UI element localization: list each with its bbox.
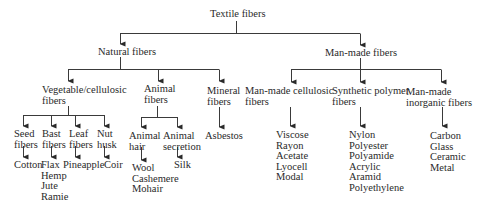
leaf-list-seed: Cotton <box>14 160 43 171</box>
node-label: fibers <box>245 97 333 108</box>
node-mineral-fibers: Mineral fibers <box>207 86 240 107</box>
leaf-item: Silk <box>174 160 191 171</box>
leaf-item: Aramid <box>349 172 404 183</box>
leaf-list-mineral: Asbestos <box>205 131 243 142</box>
node-label: fibers <box>42 140 66 151</box>
node-label: fibers <box>14 140 38 151</box>
leaf-item: Nylon <box>349 130 404 141</box>
leaf-item: Modal <box>276 172 309 183</box>
node-label: Vegetable/cellulosic <box>42 85 127 96</box>
node-label: Bast <box>42 129 66 140</box>
leaf-list-animal-hair: Wool Cashemere Mohair <box>132 163 179 195</box>
leaf-list-inorganic: Carbon Glass Ceramic Metal <box>430 131 466 173</box>
leaf-list-leaf: Pineapple <box>63 160 104 171</box>
leaf-item: Viscose <box>276 130 309 141</box>
node-label: fibers <box>42 96 127 107</box>
leaf-list-manmade-cellulosic: Viscose Rayon Acetate Lyocell Modal <box>276 130 309 183</box>
node-label: inorganic fibers <box>406 98 472 109</box>
node-textile-fibers: Textile fibers <box>210 9 266 20</box>
leaf-list-animal-secretion: Silk <box>174 160 191 171</box>
node-label: Animal <box>144 84 176 95</box>
node-label: Natural fibers <box>98 47 156 58</box>
node-label: Synthetic polymer <box>332 86 409 97</box>
leaf-item: Ramie <box>41 192 68 203</box>
node-manmade-fibers: Man-made fibers <box>325 48 397 59</box>
node-nut-husk: Nut husk <box>97 129 117 150</box>
node-animal-hair: Animal hair <box>129 131 161 152</box>
leaf-list-nut: Coir <box>104 160 123 171</box>
leaf-item: Polyethylene <box>349 183 404 194</box>
leaf-item: Coir <box>104 160 123 171</box>
leaf-item: Metal <box>430 163 466 174</box>
leaf-item: Acetate <box>276 151 309 162</box>
leaf-item: Polyamide <box>349 151 404 162</box>
node-seed-fibers: Seed fibers <box>14 129 38 150</box>
node-manmade-cellulosic-fibers: Man-made cellulosic fibers <box>245 86 333 107</box>
leaf-item: Cotton <box>14 160 43 171</box>
leaf-item: Pineapple <box>63 160 104 171</box>
node-label: fibers <box>69 140 93 151</box>
leaf-item: Jute <box>41 181 68 192</box>
node-label: hair <box>129 142 161 153</box>
leaf-item: Wool <box>132 163 179 174</box>
node-label: Animal <box>163 131 201 142</box>
node-natural-fibers: Natural fibers <box>98 47 156 58</box>
leaf-item: Mohair <box>132 184 179 195</box>
leaf-list-synthetic: Nylon Polyester Polyamide Acrylic Aramid… <box>349 130 404 193</box>
node-leaf-fibers: Leaf fibers <box>69 129 93 150</box>
node-label: Man-made cellulosic <box>245 86 333 97</box>
node-animal-fibers: Animal fibers <box>144 84 176 105</box>
node-bast-fibers: Bast fibers <box>42 129 66 150</box>
leaf-item: Asbestos <box>205 131 243 142</box>
node-label: fibers <box>207 97 240 108</box>
node-label: fibers <box>144 95 176 106</box>
node-label: Man-made fibers <box>325 48 397 59</box>
node-animal-secretion: Animal secretion <box>163 131 201 152</box>
node-manmade-inorganic-fibers: Man-made inorganic fibers <box>406 87 472 108</box>
node-synthetic-polymer-fibers: Synthetic polymer fibers <box>332 86 409 107</box>
node-label: husk <box>97 140 117 151</box>
node-label: Man-made <box>406 87 472 98</box>
node-label: Nut <box>97 129 117 140</box>
node-label: Leaf <box>69 129 93 140</box>
node-label: fibers <box>332 97 409 108</box>
leaf-item: Ceramic <box>430 152 466 163</box>
node-label: secretion <box>163 142 201 153</box>
node-label: Mineral <box>207 86 240 97</box>
node-label: Textile fibers <box>210 9 266 20</box>
node-vegetable-cellulosic-fibers: Vegetable/cellulosic fibers <box>42 85 127 106</box>
leaf-item: Carbon <box>430 131 466 142</box>
node-label: Seed <box>14 129 38 140</box>
node-label: Animal <box>129 131 161 142</box>
